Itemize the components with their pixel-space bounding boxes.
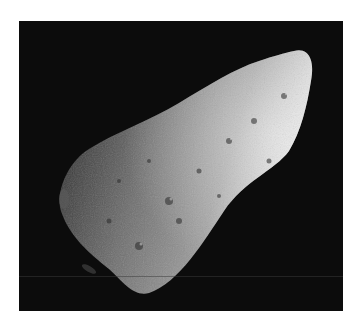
asteroid-photo [19,21,343,311]
asteroid-image [19,21,343,311]
